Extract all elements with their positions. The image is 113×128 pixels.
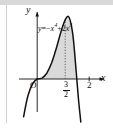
math-figure-graph: y x O 2 3 2 y=−x4+2x3 — [0, 0, 113, 128]
fraction-numerator: 3 — [60, 81, 72, 89]
fraction-denominator: 2 — [60, 91, 72, 99]
x-tick-label-2: 2 — [87, 81, 92, 90]
x-tick-label-three-halves: 3 2 — [60, 81, 72, 100]
equation-term2-exponent: 3 — [69, 22, 72, 28]
x-axis-label: x — [101, 73, 105, 83]
plot-canvas — [0, 0, 113, 128]
y-axis-label: y — [26, 5, 30, 15]
origin-label: O — [30, 81, 37, 90]
equation-label: y=−x4+2x3 — [38, 25, 72, 33]
y-axis-arrowhead — [35, 12, 39, 17]
